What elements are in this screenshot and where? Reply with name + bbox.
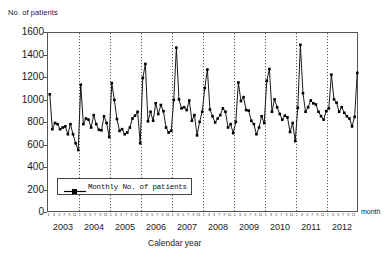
x-axis-month-tick-label: 7 bbox=[342, 213, 344, 217]
y-axis-tick-label: 800 bbox=[4, 117, 44, 127]
data-point-marker bbox=[315, 103, 318, 106]
x-axis-month-tick-label: 7 bbox=[125, 213, 127, 217]
data-point-marker bbox=[216, 117, 219, 120]
x-axis-month-tick-label: 7 bbox=[94, 213, 96, 217]
y-axis-tick-label: 1000 bbox=[4, 95, 44, 105]
data-point-marker bbox=[253, 123, 256, 126]
month-axis-caption: month bbox=[361, 208, 380, 215]
data-point-marker bbox=[227, 126, 230, 129]
data-point-marker bbox=[121, 128, 124, 131]
x-axis-month-tick-label: 1 bbox=[327, 213, 329, 217]
data-point-marker bbox=[87, 118, 90, 121]
data-point-marker bbox=[286, 116, 289, 119]
y-axis-tick-label: 1200 bbox=[4, 72, 44, 82]
x-axis-month-tick-label: 7 bbox=[156, 213, 158, 217]
x-axis-month-tick-label: 5 bbox=[244, 213, 246, 217]
x-axis-year-label: 2004 bbox=[84, 222, 104, 233]
data-point-marker bbox=[281, 118, 284, 121]
data-point-marker bbox=[188, 99, 191, 102]
data-point-marker bbox=[165, 126, 168, 129]
data-point-marker bbox=[237, 81, 240, 84]
x-axis-year-label: 2005 bbox=[115, 222, 135, 233]
data-point-marker bbox=[149, 110, 152, 113]
data-point-marker bbox=[116, 118, 119, 121]
data-point-marker bbox=[100, 129, 103, 132]
data-point-marker bbox=[268, 68, 271, 71]
data-point-marker bbox=[129, 126, 132, 129]
y-axis-tick-label: 1400 bbox=[4, 50, 44, 60]
data-point-marker bbox=[154, 102, 157, 105]
x-axis-month-tick-label: 1 bbox=[110, 213, 112, 217]
data-point-marker bbox=[312, 102, 315, 105]
data-point-marker bbox=[126, 131, 129, 134]
data-point-marker bbox=[343, 112, 346, 115]
data-point-marker bbox=[113, 99, 116, 102]
data-point-marker bbox=[74, 142, 77, 145]
x-axis-month-tick-label: 7 bbox=[280, 213, 282, 217]
data-point-marker bbox=[235, 121, 238, 124]
data-point-marker bbox=[214, 121, 217, 124]
x-axis-month-tick-label: 9 bbox=[286, 213, 288, 217]
data-point-marker bbox=[260, 115, 263, 118]
data-point-marker bbox=[271, 110, 274, 113]
data-point-marker bbox=[98, 128, 101, 131]
x-axis-month-tick-label: 7 bbox=[311, 213, 313, 217]
legend-label: Monthly No. of patients bbox=[88, 183, 187, 191]
data-point-marker bbox=[131, 117, 134, 120]
data-point-marker bbox=[90, 126, 93, 129]
y-axis-tick-label: 200 bbox=[4, 185, 44, 195]
data-point-marker bbox=[105, 122, 108, 125]
legend-marker-icon bbox=[63, 182, 87, 191]
data-point-marker bbox=[147, 120, 150, 123]
x-axis-year-labels: 2003200420052006200720082009201020112012 bbox=[47, 222, 358, 236]
data-point-marker bbox=[141, 77, 144, 80]
x-axis-month-tick-label: 7 bbox=[63, 213, 65, 217]
y-axis-tick-label: 400 bbox=[4, 162, 44, 172]
x-axis-month-tick-label: 9 bbox=[224, 213, 226, 217]
data-point-marker bbox=[51, 128, 54, 131]
x-axis-month-tick-label: 9 bbox=[68, 213, 70, 217]
x-axis-year-label: 2006 bbox=[146, 222, 166, 233]
data-point-marker bbox=[180, 107, 183, 110]
data-point-marker bbox=[232, 132, 235, 135]
data-point-marker bbox=[291, 122, 294, 125]
data-point-marker bbox=[172, 99, 175, 102]
x-axis-month-tick-label: 3 bbox=[208, 213, 210, 217]
data-point-marker bbox=[333, 98, 336, 101]
x-axis-year-label: 2007 bbox=[177, 222, 197, 233]
data-point-marker bbox=[284, 114, 287, 117]
x-axis-month-tick-label: 5 bbox=[151, 213, 153, 217]
data-point-marker bbox=[325, 110, 328, 113]
x-axis-month-tick-label: 3 bbox=[270, 213, 272, 217]
data-point-marker bbox=[175, 46, 178, 49]
data-point-marker bbox=[59, 128, 62, 131]
data-point-marker bbox=[346, 115, 349, 118]
data-point-marker bbox=[255, 133, 258, 136]
data-point-marker bbox=[67, 133, 70, 136]
data-point-marker bbox=[211, 115, 214, 118]
data-point-marker bbox=[134, 114, 137, 117]
chart-legend: Monthly No. of patients bbox=[57, 178, 192, 195]
data-point-marker bbox=[335, 101, 338, 104]
data-point-marker bbox=[144, 63, 147, 66]
x-axis-month-tick-label: 1 bbox=[296, 213, 298, 217]
x-axis-month-tick-label: 1 bbox=[79, 213, 81, 217]
data-point-marker bbox=[48, 93, 51, 96]
x-axis-month-tick-label: 11 bbox=[259, 213, 263, 217]
x-axis-month-tick-label: 11 bbox=[228, 213, 232, 217]
data-point-marker bbox=[307, 106, 310, 109]
x-axis-title: Calendar year bbox=[148, 238, 201, 248]
x-axis-year-label: 2012 bbox=[332, 222, 352, 233]
data-point-marker bbox=[170, 130, 173, 133]
data-point-marker bbox=[152, 119, 155, 122]
data-point-marker bbox=[317, 110, 320, 113]
data-point-marker bbox=[69, 123, 72, 126]
data-point-marker bbox=[193, 114, 196, 117]
data-point-marker bbox=[206, 68, 209, 71]
data-point-marker bbox=[356, 72, 359, 75]
data-point-marker bbox=[103, 115, 106, 118]
x-axis-year-label: 2011 bbox=[301, 222, 320, 233]
x-axis-month-tick-label: 5 bbox=[58, 213, 60, 217]
x-axis-year-label: 2010 bbox=[270, 222, 290, 233]
data-point-marker bbox=[110, 82, 113, 85]
